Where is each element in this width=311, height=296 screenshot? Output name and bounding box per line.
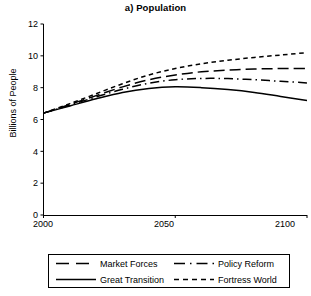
legend-item-great-transition: Great Transition bbox=[55, 272, 164, 287]
series-line-market-forces bbox=[44, 69, 308, 114]
data-series-group bbox=[44, 53, 308, 113]
legend-swatch-solid bbox=[55, 274, 97, 285]
legend-label: Fortress World bbox=[218, 275, 277, 285]
legend-swatch-dash-dot bbox=[173, 258, 215, 269]
legend-item-market-forces: Market Forces bbox=[55, 256, 158, 271]
chart-legend: Market Forces Policy Reform Great Transi… bbox=[48, 254, 290, 288]
legend-label: Market Forces bbox=[100, 259, 158, 269]
legend-item-fortress-world: Fortress World bbox=[173, 272, 277, 287]
legend-label: Policy Reform bbox=[218, 259, 274, 269]
legend-item-policy-reform: Policy Reform bbox=[173, 256, 274, 271]
legend-swatch-short-dash bbox=[173, 274, 215, 285]
legend-swatch-long-dash bbox=[55, 258, 97, 269]
series-line-fortress-world bbox=[44, 53, 308, 113]
legend-label: Great Transition bbox=[100, 275, 164, 285]
plot-area bbox=[0, 0, 311, 296]
axes bbox=[41, 24, 308, 218]
series-line-policy-reform bbox=[44, 78, 308, 113]
population-chart-figure: a) Population Billions of People 12 10 8… bbox=[0, 0, 311, 296]
